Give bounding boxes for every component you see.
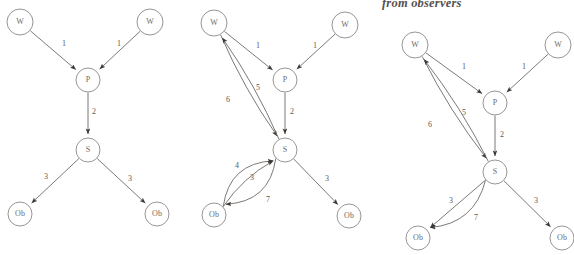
edge-weight-label: 3	[449, 196, 453, 205]
node-ob2[interactable]: Ob	[145, 202, 169, 226]
node-label: Ob	[15, 209, 25, 218]
graph-diagrams: 11233WWPSObOb112564373WWPSObOb11256373WW…	[0, 0, 574, 255]
node-label: W	[411, 40, 419, 49]
node-label: Ob	[413, 233, 423, 242]
edge-weight-label: 1	[117, 39, 121, 48]
node-label: Ob	[209, 210, 219, 219]
node-ob1[interactable]: Ob	[8, 202, 32, 226]
edge-s-to-ob2	[294, 159, 338, 205]
diagram-right: 11256373WWPSObOb	[402, 32, 574, 250]
edge-weight-label: 7	[266, 195, 270, 204]
node-label: P	[283, 75, 288, 84]
edge-weight-label: 1	[522, 62, 526, 71]
node-w2[interactable]: W	[332, 12, 358, 38]
node-label: W	[341, 20, 349, 29]
node-s[interactable]: S	[273, 138, 297, 162]
edge-weight-label: 1	[462, 62, 466, 71]
node-ob2[interactable]: Ob	[337, 204, 361, 228]
edge-weight-label: 3	[44, 172, 48, 181]
node-s[interactable]: S	[76, 138, 100, 162]
node-ob2[interactable]: Ob	[550, 226, 574, 250]
node-w1[interactable]: W	[201, 10, 227, 36]
node-ob1[interactable]: Ob	[202, 203, 226, 227]
node-label: W	[554, 40, 562, 49]
edge-s-to-ob2	[97, 159, 145, 204]
edge-weight-label: 7	[474, 213, 478, 222]
node-p[interactable]: P	[273, 68, 297, 92]
edge-weight-label: 1	[313, 41, 317, 50]
edge-w1-to-s	[221, 35, 278, 136]
node-label: W	[16, 17, 24, 26]
node-w1[interactable]: W	[7, 9, 33, 35]
node-label: W	[210, 18, 218, 27]
edge-weight-label: 3	[128, 174, 132, 183]
diagram-middle: 112564373WWPSObOb	[201, 10, 361, 228]
node-label: S	[493, 167, 497, 176]
diagram-render-root: 11233WWPSObOb112564373WWPSObOb11256373WW…	[7, 9, 574, 250]
node-ob1[interactable]: Ob	[406, 226, 430, 250]
node-p[interactable]: P	[76, 68, 100, 92]
node-p[interactable]: P	[483, 91, 507, 115]
edge-weight-label: 2	[500, 130, 504, 139]
edge-weight-label: 5	[256, 83, 260, 92]
node-w2[interactable]: W	[137, 9, 163, 35]
node-label: P	[86, 75, 91, 84]
edge-weight-label: 2	[92, 107, 96, 116]
node-label: P	[493, 98, 498, 107]
edge-s-to-ob1	[32, 159, 79, 203]
node-label: S	[86, 145, 90, 154]
node-label: Ob	[344, 211, 354, 220]
edge-weight-label: 1	[62, 39, 66, 48]
edge-w1-to-s	[422, 56, 486, 158]
node-w1[interactable]: W	[402, 32, 428, 58]
edge-weight-label: 1	[256, 41, 260, 50]
edge-w2-to-p	[507, 54, 548, 92]
node-label: Ob	[152, 209, 162, 218]
edge-weight-label: 6	[226, 95, 230, 104]
node-w2[interactable]: W	[545, 32, 571, 58]
figure-canvas: from observers 11233WWPSObOb112564373WWP…	[0, 0, 574, 255]
edge-weight-label: 2	[290, 107, 294, 116]
edge-w2-to-p	[297, 34, 335, 69]
node-label: S	[283, 145, 287, 154]
edge-w1-to-p	[225, 31, 273, 70]
edge-w2-to-p	[100, 31, 140, 69]
edge-s-to-w1	[222, 38, 279, 139]
edge-weight-label: 3	[534, 196, 538, 205]
node-s[interactable]: S	[483, 160, 507, 184]
diagram-left: 11233WWPSObOb	[7, 9, 169, 226]
node-label: Ob	[557, 233, 567, 242]
edge-weight-label: 6	[428, 120, 432, 129]
edge-weight-label: 3	[325, 174, 329, 183]
edge-s-to-ob2	[504, 181, 551, 227]
edge-w1-to-p	[30, 31, 76, 70]
edge-weight-label: 4	[235, 161, 239, 170]
node-label: W	[146, 17, 154, 26]
edge-weight-label: 3	[250, 173, 254, 182]
